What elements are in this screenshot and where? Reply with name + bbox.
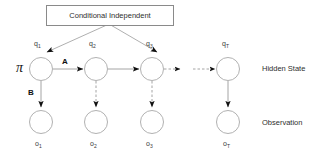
callout-connectors [47,24,157,52]
initial-probability-label: π [16,61,23,75]
emission-arrows [41,81,228,107]
state-label-q3-sub: 3 [150,43,153,49]
node-o3 [141,111,164,134]
emission-matrix-label: B [28,89,34,97]
state-label-q1: q1 [34,40,41,47]
state-label-q2: q2 [89,40,96,47]
transition-matrix-label: A [62,58,68,66]
observation-label-o3-sub: 3 [150,143,153,149]
node-qT [217,58,240,81]
state-label-q3: q3 [146,40,153,47]
node-o2 [85,111,108,134]
observation-label-o2-sub: 2 [94,143,97,149]
node-o1 [30,111,53,134]
node-oT [217,111,240,134]
node-q2 [85,58,108,81]
row-label-hidden-state: Hidden State [262,65,305,73]
node-q3 [141,58,164,81]
observation-nodes [30,111,240,134]
observation-label-oT: oT [223,140,230,147]
conditional-independent-box: Conditional Independent [46,5,174,26]
state-label-qT: qT [222,40,229,47]
row-label-observation: Observation [262,119,302,127]
observation-label-o2: o2 [90,140,97,147]
state-label-qT-sub: T [226,43,229,49]
observation-label-oT-sub: T [227,143,230,149]
state-label-q2-sub: 2 [93,43,96,49]
hmm-diagram-figure: Conditional Independent π A B q1 q2 q3 q… [0,0,322,161]
observation-label-o1: o1 [35,140,42,147]
observation-label-o3: o3 [146,140,153,147]
node-q1 [30,58,53,81]
callout-line-to-q1 [47,24,109,52]
state-label-q1-sub: 1 [38,43,41,49]
observation-label-o1-sub: 1 [39,143,42,149]
conditional-independent-label: Conditional Independent [69,11,150,20]
